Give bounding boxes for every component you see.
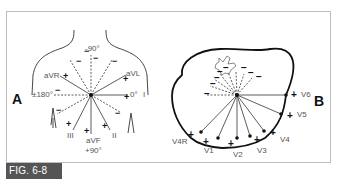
svg-text:+: +	[228, 138, 234, 149]
svg-text:+: +	[254, 134, 260, 145]
svg-text:−: −	[241, 62, 247, 73]
polarity-signs-a: − − − − − − − + + + + + +	[55, 46, 129, 136]
svg-text:+: +	[124, 92, 129, 102]
label-avl: aVL	[126, 69, 141, 78]
svg-text:−: −	[55, 85, 60, 95]
label-avf: aVF	[86, 136, 101, 145]
label-180: ±180°	[32, 90, 53, 99]
svg-text:+: +	[287, 110, 293, 121]
svg-text:+: +	[84, 126, 89, 136]
ecg-lead-diagram: − − − − − − − + + + + + + -90° aVR aVL ±…	[0, 0, 337, 185]
label-v1: V1	[204, 146, 214, 155]
svg-text:+: +	[63, 71, 68, 81]
svg-text:−: −	[112, 56, 117, 66]
svg-text:−: −	[256, 71, 262, 82]
label-v3: V3	[257, 146, 267, 155]
svg-text:+: +	[188, 129, 194, 140]
panel-letter-a: A	[12, 91, 22, 107]
label-0: 0°	[130, 90, 138, 99]
label-lead-iii: III	[67, 131, 74, 140]
svg-text:+: +	[66, 119, 71, 129]
svg-text:−: −	[76, 56, 81, 66]
label-v6: V6	[301, 90, 311, 99]
svg-text:−: −	[115, 108, 120, 118]
svg-text:−: −	[56, 105, 61, 115]
svg-text:−: −	[93, 53, 98, 63]
label-lead-i: I	[143, 90, 145, 99]
label-minus-90: -90°	[85, 44, 100, 53]
svg-text:+: +	[291, 89, 297, 100]
label-plus-90: +90°	[85, 146, 102, 155]
label-avr: aVR	[44, 71, 60, 80]
label-v5: V5	[297, 110, 307, 119]
svg-text:−: −	[204, 88, 210, 99]
svg-text:+: +	[270, 127, 276, 138]
svg-text:−: −	[248, 67, 254, 78]
center-dot	[89, 93, 93, 97]
figure-label: FIG. 6-8	[6, 163, 62, 179]
label-v4r: V4R	[172, 137, 188, 146]
panel-letter-b: B	[314, 93, 324, 109]
label-lead-ii: II	[112, 131, 116, 140]
svg-text:+: +	[102, 121, 107, 131]
label-v4: V4	[280, 135, 290, 144]
label-v2: V2	[233, 150, 243, 159]
svg-text:−: −	[223, 62, 229, 73]
